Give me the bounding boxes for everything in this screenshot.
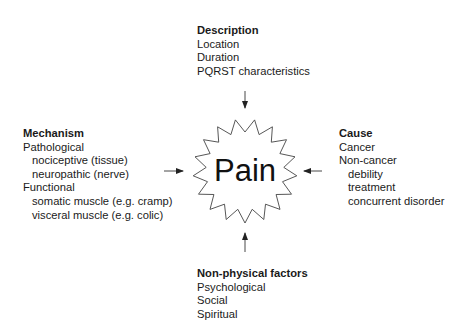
nonphysical-item-psychological: Psychological — [197, 281, 308, 295]
nonphysical-item-spiritual: Spiritual — [197, 308, 308, 322]
cause-item-cancer: Cancer — [339, 141, 444, 155]
mechanism-group-pathological: Pathological — [23, 141, 173, 155]
mechanism-subitem-somatic: somatic muscle (e.g. cramp) — [23, 195, 173, 209]
mechanism-heading: Mechanism — [23, 127, 173, 141]
mechanism-subitem-visceral: visceral muscle (e.g. colic) — [23, 209, 173, 223]
description-item-duration: Duration — [197, 51, 310, 65]
cause-subitem-debility: debility — [339, 168, 444, 182]
description-item-pqrst: PQRST characteristics — [197, 65, 310, 79]
mechanism-block: Mechanism Pathological nociceptive (tiss… — [23, 127, 173, 222]
nonphysical-heading: Non-physical factors — [197, 267, 308, 281]
cause-subitem-treatment: treatment — [339, 181, 444, 195]
nonphysical-block: Non-physical factors Psychological Socia… — [197, 267, 308, 321]
cause-heading: Cause — [339, 127, 444, 141]
description-heading: Description — [197, 24, 310, 38]
mechanism-subitem-neuropathic: neuropathic (nerve) — [23, 168, 173, 182]
cause-item-non-cancer: Non-cancer — [339, 154, 444, 168]
description-block: Description Location Duration PQRST char… — [197, 24, 310, 78]
mechanism-subitem-nociceptive: nociceptive (tissue) — [23, 154, 173, 168]
description-item-location: Location — [197, 38, 310, 52]
mechanism-group-functional: Functional — [23, 181, 173, 195]
cause-block: Cause Cancer Non-cancer debility treatme… — [339, 127, 444, 209]
cause-subitem-concurrent-disorder: concurrent disorder — [339, 195, 444, 209]
nonphysical-item-social: Social — [197, 294, 308, 308]
pain-label: Pain — [195, 153, 295, 189]
